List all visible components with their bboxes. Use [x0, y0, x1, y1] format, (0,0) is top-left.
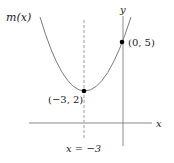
y-intercept-point	[120, 40, 125, 45]
vertex-point	[82, 89, 87, 94]
parabola-curve	[40, 17, 131, 91]
function-label: m(x)	[6, 11, 31, 24]
vertex-label: (−3, 2)	[48, 94, 83, 105]
y-intercept-label: (0, 5)	[128, 37, 155, 48]
y-axis-label: y	[119, 4, 126, 15]
x-axis-label: x	[156, 118, 162, 129]
parabola-graph: m(x) y x (0, 5) (−3, 2) x = −3	[0, 0, 174, 163]
axis-of-symmetry-label: x = −3	[66, 143, 101, 154]
